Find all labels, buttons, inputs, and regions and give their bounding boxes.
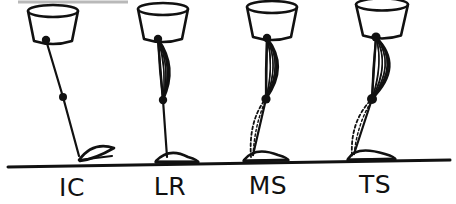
pelvis-rim-ellipse <box>138 3 188 15</box>
knee-joint-marker <box>261 94 270 103</box>
leg-figure-ts <box>348 0 408 160</box>
phase-label-ic: IC <box>59 173 85 202</box>
pelvis-rim-ellipse <box>247 1 297 13</box>
hip-joint-marker <box>263 34 271 42</box>
shank-segment <box>63 97 79 156</box>
shank-segment <box>163 100 167 157</box>
foot-lr <box>156 153 198 162</box>
foot-ic <box>79 146 114 161</box>
leg-figure-ic <box>28 5 114 161</box>
hip-joint-marker <box>371 32 380 41</box>
knee-joint-marker <box>367 94 377 104</box>
leg-figures-group <box>28 0 408 162</box>
ground-line <box>8 160 450 167</box>
hip-joint-marker <box>42 36 50 44</box>
leg-figure-ms <box>244 1 297 161</box>
shank-segment <box>354 99 372 154</box>
phase-label-lr: LR <box>154 172 186 201</box>
quadriceps-muscle-bundle <box>266 38 278 99</box>
foot-ts <box>348 150 395 160</box>
quadriceps-muscle-bundle <box>158 39 170 100</box>
phase-label-ts: TS <box>358 170 391 199</box>
phase-labels-group: ICLRMSTS <box>59 170 391 202</box>
foot-sole-line <box>244 160 288 161</box>
leg-figure-lr <box>138 3 198 162</box>
calf-dash-lateral <box>251 101 264 157</box>
pelvis-rim-ellipse <box>28 5 78 17</box>
gait-phases-figure: ICLRMSTS <box>0 0 456 204</box>
muscle-outline-anterior <box>266 38 267 99</box>
hip-joint-marker <box>154 35 162 43</box>
knee-joint-marker <box>59 93 67 101</box>
ground-line-stroke <box>8 160 450 167</box>
pelvis-rim-ellipse <box>356 0 408 11</box>
foot-sole-line <box>348 159 395 160</box>
thigh-segment <box>46 40 63 97</box>
gait-diagram-svg: ICLRMSTS <box>0 0 456 204</box>
knee-joint-marker <box>159 96 167 104</box>
phase-label-ms: MS <box>249 171 287 200</box>
